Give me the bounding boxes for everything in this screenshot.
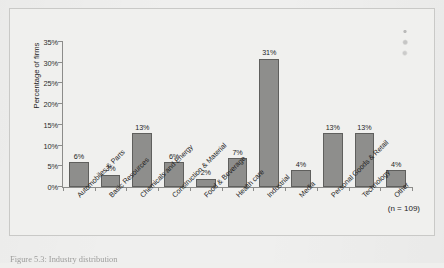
x-tick-mark — [412, 187, 413, 191]
bar-group: 4% — [386, 42, 406, 187]
x-tick-mark — [95, 187, 96, 191]
bar-value-label: 13% — [357, 123, 371, 132]
x-tick-mark — [285, 187, 286, 191]
y-tick-label-15: 15% — [44, 121, 59, 130]
bar-group: 4% — [291, 42, 311, 187]
bar-group: 31% — [259, 42, 279, 187]
bar-value-label: 4% — [296, 160, 306, 169]
y-tick-label-20: 20% — [44, 100, 59, 109]
x-tick-mark — [380, 187, 381, 191]
bar-value-label: 13% — [135, 123, 149, 132]
y-tick-label-0: 0% — [48, 183, 58, 192]
x-tick-mark — [63, 187, 64, 191]
figure-caption: Figure 5.3: Industry distribution — [10, 255, 117, 264]
x-tick-mark — [317, 187, 318, 191]
y-tick-label-5: 5% — [48, 162, 58, 171]
y-tick-label-35: 35% — [44, 38, 59, 47]
y-axis-tick-labels: 35% 30% 25% 20% 15% 10% 5% 0% — [32, 9, 58, 268]
bar-value-label: 31% — [262, 48, 276, 57]
x-tick-mark — [126, 187, 127, 191]
x-tick-mark — [190, 187, 191, 191]
bar-group: 6% — [69, 42, 89, 187]
figure-frame: Percentage of firms 35% 30% 25% 20% 15% … — [9, 8, 435, 236]
y-tick-label-10: 10% — [44, 142, 59, 151]
bar-group: 13% — [323, 42, 343, 187]
x-tick-mark — [158, 187, 159, 191]
bar-value-label: 6% — [74, 152, 84, 161]
y-tick-label-25: 25% — [44, 79, 59, 88]
bar-value-label: 13% — [326, 123, 340, 132]
sample-size-annotation: (n = 109) — [388, 204, 420, 213]
bar-value-label: 4% — [391, 160, 401, 169]
bar — [323, 133, 343, 187]
y-tick-label-30: 30% — [44, 59, 59, 68]
x-tick-mark — [222, 187, 223, 191]
x-tick-mark — [349, 187, 350, 191]
bar — [259, 59, 279, 187]
x-tick-mark — [253, 187, 254, 191]
